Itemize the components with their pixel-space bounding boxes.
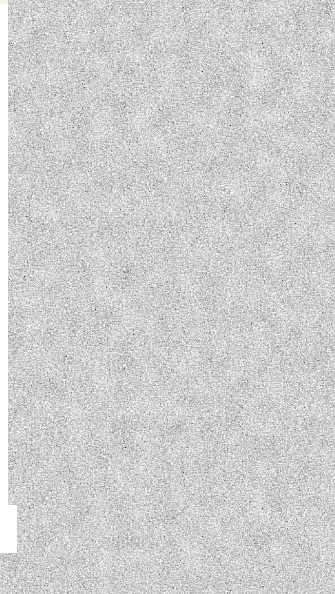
- corner-notch: [0, 505, 17, 553]
- grain-fine-layer: [0, 0, 335, 594]
- grain-fiber-layer: [0, 0, 335, 594]
- texture-plate: [0, 0, 335, 594]
- grain-clump-layer: [0, 0, 335, 594]
- left-margin: [0, 4, 8, 506]
- grain-base-layer: [0, 0, 335, 594]
- grain-speckle-layer: [0, 0, 335, 594]
